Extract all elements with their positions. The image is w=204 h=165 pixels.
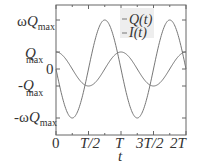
chart: Q(t) I(t) ωQmax Q max 0 -Q max -ωQmax 0 …	[0, 0, 204, 165]
ytick-neg-qmax-sub: max	[26, 87, 43, 98]
xtick-0: 0	[52, 135, 60, 151]
legend-i-label: I(t)	[128, 25, 147, 41]
xtick-3half-t: 3T/2	[135, 135, 164, 151]
ytick-qmax-sub: max	[26, 54, 43, 65]
ytick-neg-wqmax: -ωQmax	[14, 109, 57, 128]
ytick-zero: 0	[46, 61, 54, 77]
xtick-half-t: T/2	[80, 135, 101, 151]
xtick-2t: 2T	[170, 135, 188, 151]
ytick-wqmax: ωQmax	[17, 13, 55, 32]
